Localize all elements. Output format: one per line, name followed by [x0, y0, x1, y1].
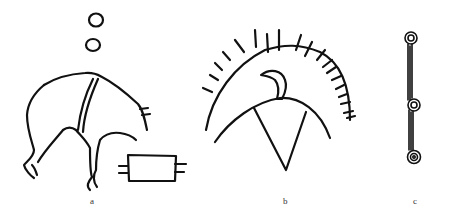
- panel-a-label: a: [90, 196, 94, 206]
- panel-b-drawing: [203, 30, 355, 170]
- panel-c-drawing: [405, 32, 421, 164]
- panel-b-label: b: [283, 196, 288, 206]
- panel-a-drawing: [24, 14, 186, 191]
- panel-c-label: c: [413, 196, 417, 206]
- figure-drawing: [0, 0, 449, 218]
